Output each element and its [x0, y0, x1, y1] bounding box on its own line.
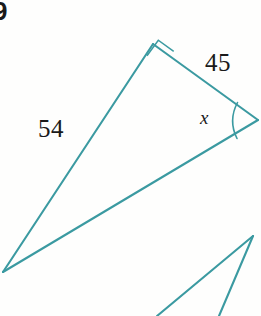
partial-triangle-left-edge: [157, 236, 253, 316]
triangle-side-hypotenuse-54: [3, 44, 153, 272]
partial-triangle-bottom-right: [157, 236, 253, 316]
angle-label-x: x: [200, 108, 208, 127]
geometry-figure-container: 9 54 45 x: [0, 0, 261, 316]
triangle-diagram-svg: [0, 0, 261, 316]
triangle-side-base: [3, 120, 258, 272]
partial-triangle-right-edge: [219, 236, 253, 316]
side-length-label-54: 54: [38, 116, 64, 141]
main-right-triangle: [3, 44, 258, 272]
side-length-label-45: 45: [205, 50, 231, 75]
